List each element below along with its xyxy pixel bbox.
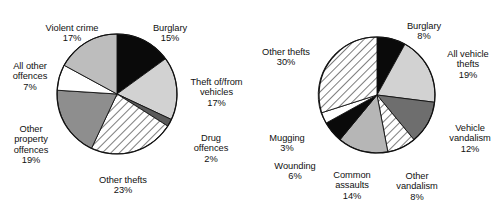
label-drug-offences: Drug offences 2% — [181, 122, 241, 175]
label-common-assaults-pct: 14% — [322, 191, 382, 202]
label-vehicle-vandalism: Vehicle vandalism 12% — [440, 112, 500, 165]
label-burglary-name: Burglary — [407, 21, 441, 31]
pie-chart-left: Violent crime 17% All other offences 7% … — [0, 0, 250, 206]
label-common-assaults: Common assaults 14% — [322, 159, 382, 206]
label-other-property-offences-pct: 19% — [0, 155, 62, 166]
label-other-thefts: Other thefts 30% — [250, 36, 322, 78]
label-all-other-offences-name: All other offences — [13, 61, 48, 82]
label-violent-crime-pct: 17% — [24, 33, 120, 44]
label-burglary-pct: 15% — [135, 33, 205, 44]
label-theft-of-from-vehicles-name: Theft of/from vehicles — [190, 77, 242, 98]
pie-chart-right: Burglary 8% All vehicle thefts 19% Vehic… — [250, 0, 500, 206]
label-other-thefts-name: Other thefts — [262, 47, 310, 57]
two-pie-chart-figure: Violent crime 17% All other offences 7% … — [0, 0, 500, 206]
label-mugging-pct: 3% — [256, 143, 318, 154]
label-theft-of-from-vehicles: Theft of/from vehicles 17% — [183, 66, 250, 119]
label-drug-offences-name: Drug offences — [194, 133, 229, 154]
label-drug-offences-pct: 2% — [181, 154, 241, 165]
label-all-other-offences-pct: 7% — [0, 82, 60, 93]
label-other-thefts-pct: 23% — [78, 185, 168, 196]
label-other-property-offences-name: Other property offences — [14, 124, 49, 155]
label-theft-of-from-vehicles-pct: 17% — [183, 98, 250, 109]
label-other-property-offences: Other property offences 19% — [0, 113, 62, 177]
label-all-vehicle-thefts: All vehicle thefts 19% — [438, 38, 498, 91]
label-other-thefts-pct: 30% — [250, 57, 322, 68]
label-all-vehicle-thefts-pct: 19% — [438, 70, 498, 81]
label-violent-crime-name: Violent crime — [46, 23, 99, 33]
label-wounding-pct: 6% — [264, 171, 326, 182]
label-violent-crime: Violent crime 17% — [24, 12, 120, 54]
label-vehicle-vandalism-name: Vehicle vandalism — [449, 123, 490, 144]
label-other-vandalism-pct: 8% — [385, 192, 449, 203]
label-all-other-offences: All other offences 7% — [0, 50, 60, 103]
label-other-vandalism-name: Other vandalism — [396, 171, 437, 192]
label-all-vehicle-thefts-name: All vehicle thefts — [447, 49, 488, 70]
label-other-thefts: Other thefts 23% — [78, 164, 168, 206]
label-mugging-name: Mugging — [269, 133, 304, 143]
label-burglary: Burglary 15% — [135, 12, 205, 54]
label-burglary-name: Burglary — [153, 23, 187, 33]
label-common-assaults-name: Common assaults — [333, 170, 370, 191]
label-other-thefts-name: Other thefts — [99, 175, 147, 185]
label-vehicle-vandalism-pct: 12% — [440, 144, 500, 155]
label-mugging: Mugging 3% — [256, 122, 318, 164]
pie-right-slices — [318, 37, 435, 153]
label-other-vandalism: Other vandalism 8% — [385, 160, 449, 206]
